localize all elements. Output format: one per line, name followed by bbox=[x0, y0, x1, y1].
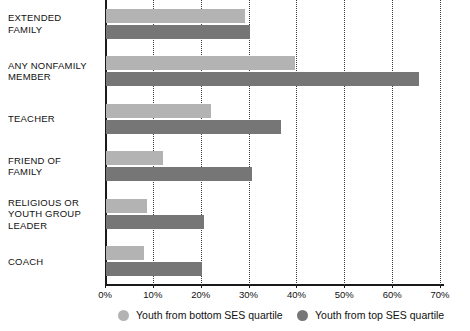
gridline-30% bbox=[249, 0, 251, 285]
bar bbox=[106, 246, 144, 260]
x-tick-label: 0% bbox=[98, 289, 112, 301]
tick-mark-50% bbox=[344, 285, 345, 288]
chart-legend: Youth from bottom SES quartileYouth from… bbox=[0, 309, 470, 329]
bar bbox=[106, 120, 281, 134]
category-label: FRIEND OF FAMILY bbox=[8, 155, 103, 178]
tick-mark-0% bbox=[105, 285, 106, 288]
gridline-60% bbox=[392, 0, 394, 285]
category-label: COACH bbox=[8, 256, 103, 268]
tick-mark-60% bbox=[392, 285, 393, 288]
legend-swatch-bottom-ses-icon bbox=[118, 310, 129, 321]
gridline-20% bbox=[201, 0, 203, 285]
x-axis-tick-labels: 0%10%20%30%40%50%60%70% bbox=[105, 289, 465, 305]
grouped-bar-chart: EXTENDED FAMILYANY NONFAMILY MEMBERTEACH… bbox=[0, 0, 470, 331]
legend-item: Youth from bottom SES quartile bbox=[118, 309, 283, 322]
legend-label: Youth from bottom SES quartile bbox=[136, 309, 283, 322]
category-label: RELIGIOUS OR YOUTH GROUP LEADER bbox=[8, 197, 103, 232]
bar bbox=[106, 9, 245, 23]
x-tick-label: 30% bbox=[239, 289, 258, 301]
gridline-70% bbox=[440, 0, 442, 285]
bar bbox=[106, 56, 295, 70]
category-axis-labels: EXTENDED FAMILYANY NONFAMILY MEMBERTEACH… bbox=[8, 0, 103, 285]
legend-item: Youth from top SES quartile bbox=[297, 309, 444, 322]
tick-mark-30% bbox=[249, 285, 250, 288]
x-tick-label: 10% bbox=[143, 289, 162, 301]
bar bbox=[106, 151, 163, 165]
bar bbox=[106, 262, 202, 276]
bar bbox=[106, 199, 147, 213]
bar bbox=[106, 104, 211, 118]
plot-area bbox=[105, 0, 444, 285]
tick-mark-20% bbox=[201, 285, 202, 288]
x-tick-label: 20% bbox=[191, 289, 210, 301]
gridline-40% bbox=[296, 0, 298, 285]
bar bbox=[106, 215, 204, 229]
x-tick-label: 60% bbox=[383, 289, 402, 301]
category-label: ANY NONFAMILY MEMBER bbox=[8, 60, 103, 83]
legend-swatch-top-ses-icon bbox=[297, 310, 308, 321]
gridline-10% bbox=[153, 0, 155, 285]
bar bbox=[106, 25, 250, 39]
y-axis-line bbox=[105, 0, 107, 285]
tick-mark-40% bbox=[296, 285, 297, 288]
tick-mark-70% bbox=[440, 285, 441, 288]
category-label: EXTENDED FAMILY bbox=[8, 12, 103, 35]
tick-mark-10% bbox=[153, 285, 154, 288]
x-tick-label: 50% bbox=[335, 289, 354, 301]
x-tick-label: 40% bbox=[287, 289, 306, 301]
bar bbox=[106, 167, 252, 181]
legend-label: Youth from top SES quartile bbox=[315, 309, 444, 322]
x-tick-label: 70% bbox=[430, 289, 449, 301]
bar bbox=[106, 72, 419, 86]
category-label: TEACHER bbox=[8, 113, 103, 125]
gridline-50% bbox=[344, 0, 346, 285]
